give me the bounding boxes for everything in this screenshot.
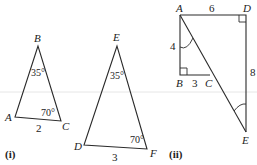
geometry-diagram: B A C 35° 70° 2 E D F 35° 70° 3 (i) A D … — [0, 0, 257, 165]
side-label-df: 3 — [112, 151, 118, 163]
vertex-label-b2: B — [176, 77, 183, 89]
side-label-ad: 6 — [209, 2, 215, 14]
side-label-ab: 4 — [170, 40, 176, 52]
triangle-abc: B A C 35° 70° 2 — [4, 32, 70, 134]
vertex-label-e: E — [112, 31, 120, 43]
right-angle-mark-b — [180, 68, 187, 75]
vertex-label-b: B — [34, 32, 41, 44]
vertex-label-e2: E — [241, 134, 249, 146]
figure-label-ii: (ii) — [169, 148, 183, 161]
figure-label-i: (i) — [5, 148, 16, 161]
side-label-de: 8 — [250, 66, 256, 78]
vertex-label-d: D — [73, 140, 82, 152]
vertex-label-f: F — [149, 147, 157, 159]
vertex-label-d2: D — [242, 2, 251, 14]
vertex-label-c: C — [62, 120, 70, 132]
angle-arc-a — [180, 38, 193, 48]
angle-label-e: 35° — [110, 70, 124, 81]
angle-label-c: 70° — [41, 107, 55, 118]
vertex-label-a2: A — [175, 2, 183, 14]
triangle-def: E D F 35° 70° 3 — [73, 31, 157, 163]
side-label-ac: 2 — [36, 122, 42, 134]
right-angle-mark-d — [239, 15, 246, 22]
side-label-bc: 3 — [192, 77, 198, 89]
segment-ace — [180, 15, 246, 132]
vertex-label-a: A — [4, 111, 12, 123]
angle-arc-e — [234, 104, 246, 111]
angle-label-b: 35° — [31, 67, 45, 78]
vertex-label-c2: C — [205, 77, 213, 89]
figure-ii: A D B C E 6 4 3 8 — [170, 2, 256, 146]
angle-label-f: 70° — [130, 134, 144, 145]
